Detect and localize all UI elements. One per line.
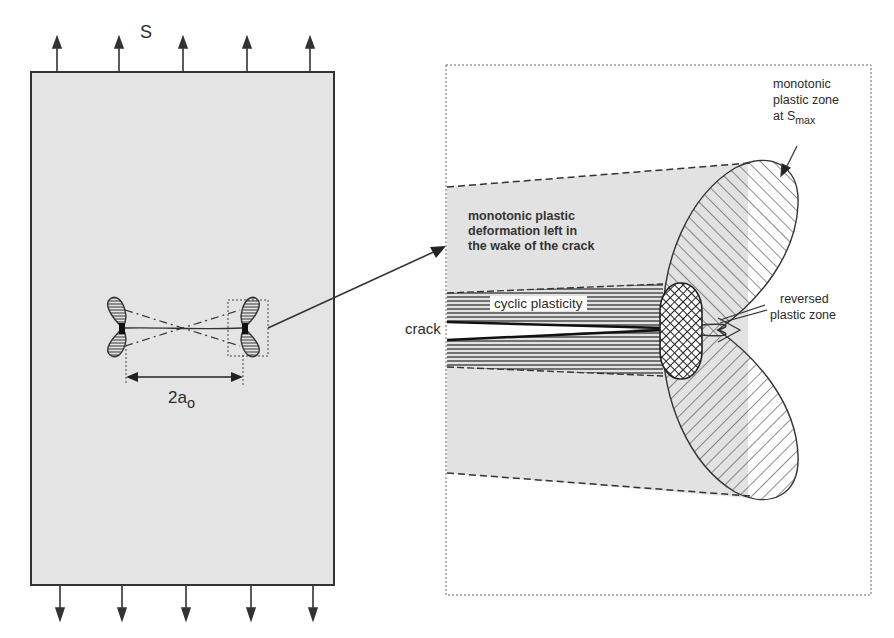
- reversed-zone-label-line2: plastic zone: [770, 307, 836, 323]
- monotonic-zone-label: monotonic plastic zone at Smax: [773, 76, 839, 128]
- reversed-zone-label: reversed plastic zone: [770, 291, 836, 323]
- wake-label-line2: deformation left in: [468, 224, 594, 239]
- reversed-zone-label-line1: reversed: [770, 291, 836, 307]
- wake-label: monotonic plastic deformation left in th…: [468, 209, 594, 254]
- monotonic-zone-label-line1: monotonic: [773, 76, 839, 92]
- crack-length-label: 2ao: [168, 388, 195, 411]
- smax-subscript: max: [795, 114, 815, 126]
- cyclic-plasticity-label: cyclic plasticity: [490, 296, 587, 311]
- wake-label-line3: the wake of the crack: [468, 239, 594, 254]
- wake-label-line1: monotonic plastic: [468, 209, 594, 224]
- crack-length-subscript: o: [187, 395, 195, 411]
- crack-length-main: 2a: [168, 388, 187, 407]
- crack-label: crack: [405, 320, 441, 337]
- monotonic-zone-label-line3: at Smax: [773, 108, 839, 128]
- top-load-arrows: [53, 37, 314, 72]
- load-label: S: [140, 22, 152, 43]
- monotonic-zone-label-line2: plastic zone: [773, 92, 839, 108]
- bottom-load-arrows: [56, 585, 317, 620]
- reversed-plastic-zone: [660, 283, 702, 379]
- smax-prefix: at S: [773, 109, 795, 123]
- diagram-canvas: [0, 0, 894, 638]
